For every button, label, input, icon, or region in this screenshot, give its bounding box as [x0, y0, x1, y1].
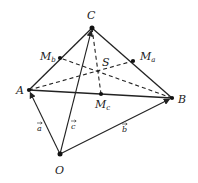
point-Mc: [99, 92, 103, 96]
label-Mb: Mb: [39, 50, 56, 64]
point-A: [27, 88, 31, 92]
point-Mb: [58, 56, 62, 60]
triangle-centroid-diagram: abc ABCOMaMbMcS: [0, 0, 198, 183]
label-O: O: [55, 164, 64, 177]
median-CMc: [92, 28, 101, 94]
point-C: [90, 26, 95, 31]
vector-a: [30, 93, 60, 154]
point-Ma: [131, 59, 135, 63]
vector-label-a: a: [37, 124, 42, 133]
point-O: [58, 152, 63, 157]
label-Ma: Ma: [139, 50, 155, 64]
vector-b: [60, 99, 169, 154]
vector-label-c: c: [71, 122, 76, 131]
point-B: [170, 96, 174, 100]
label-S: S: [102, 56, 110, 69]
label-B: B: [177, 93, 186, 106]
label-Mc: Mc: [94, 98, 110, 112]
vector-label-b: b: [122, 125, 127, 134]
median-BMb: [60, 58, 172, 98]
label-C: C: [87, 9, 96, 22]
label-A: A: [15, 84, 24, 97]
